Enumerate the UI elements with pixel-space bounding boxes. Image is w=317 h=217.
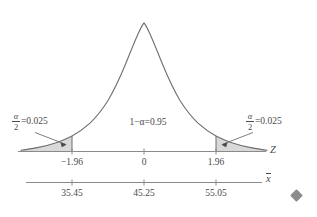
- xbar-glyph: x: [266, 174, 271, 185]
- left-alpha-annotation: α 2 =0.025: [12, 112, 48, 131]
- xbar-tick-label-left: 35.45: [61, 189, 82, 199]
- alpha-value-left: =0.025: [21, 117, 48, 127]
- z-tick-label-left: −1.96: [61, 158, 83, 168]
- xbar-overbar: [266, 173, 271, 174]
- denominator-right: 2: [247, 122, 253, 131]
- alpha-symbol-left: α: [13, 112, 19, 121]
- alpha-over-two-fraction-right: α 2: [246, 112, 254, 131]
- xbar-axis-label: x: [266, 174, 271, 185]
- confidence-level-label: 1−α=0.95: [129, 118, 166, 128]
- z-tick-label-right: 1.96: [208, 158, 225, 168]
- z-tick-label-center: 0: [142, 158, 147, 168]
- xbar-tick-label-right: 55.05: [205, 189, 226, 199]
- right-alpha-annotation: α 2 =0.025: [246, 112, 282, 131]
- z-axis-label: Z: [270, 145, 276, 156]
- xbar-letter: x: [266, 173, 271, 184]
- normal-curve: [21, 23, 267, 150]
- xbar-tick-label-center: 45.25: [133, 189, 154, 199]
- denominator-left: 2: [13, 122, 19, 131]
- alpha-symbol-right: α: [247, 112, 253, 121]
- alpha-value-right: =0.025: [255, 117, 282, 127]
- normal-distribution-figure: α 2 =0.025 α 2 =0.025 1−α=0.95 Z −1.96 0…: [0, 0, 317, 217]
- alpha-over-two-fraction-left: α 2: [12, 112, 20, 131]
